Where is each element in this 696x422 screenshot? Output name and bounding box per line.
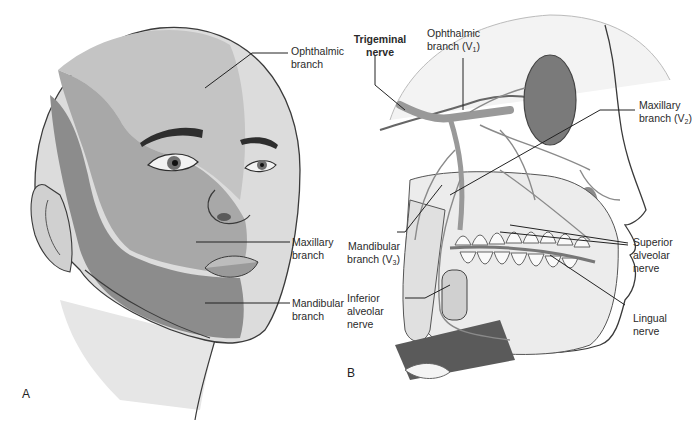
label-text: branch (V	[347, 253, 393, 265]
label-mandibular-branch: Mandibular branch	[292, 297, 344, 323]
label-line: branch (V1)	[427, 40, 480, 56]
label-maxillary-branch-v2: Maxillary branch (V2)	[639, 99, 692, 128]
label-line: Superior	[633, 236, 673, 249]
label-line: branch	[291, 58, 344, 71]
panel-letter-b: B	[347, 366, 355, 380]
label-line: nerve	[350, 46, 410, 59]
label-line: Ophthalmic	[427, 27, 480, 40]
label-line: Maxillary	[292, 236, 333, 249]
label-line: Trigeminal	[350, 33, 410, 46]
label-superior-alveolar-nerve: Superior alveolar nerve	[633, 236, 673, 275]
label-lingual-nerve: Lingual nerve	[633, 312, 667, 338]
panel-letter-a: A	[22, 387, 30, 401]
label-line: alveolar	[347, 305, 384, 318]
label-line: Inferior	[347, 292, 384, 305]
label-line: branch (V3)	[345, 253, 400, 269]
label-line: branch (V2)	[639, 112, 692, 128]
label-inferior-alveolar-nerve: Inferior alveolar nerve	[347, 292, 384, 331]
label-text: branch (V	[639, 112, 685, 124]
label-text: )	[688, 112, 692, 124]
panel-b-skull: Trigeminal nerve Ophthalmic branch (V1) …	[350, 0, 696, 422]
label-trigeminal-nerve: Trigeminal nerve	[350, 33, 410, 59]
label-ophthalmic-branch: Ophthalmic branch	[291, 45, 344, 71]
label-text: branch (V	[427, 40, 473, 52]
label-line: Ophthalmic	[291, 45, 344, 58]
label-line: branch	[292, 310, 344, 323]
label-line: Mandibular	[345, 240, 400, 253]
skull-nerve-illustration	[350, 0, 696, 422]
label-ophthalmic-branch-v1: Ophthalmic branch (V1)	[427, 27, 480, 56]
label-line: Maxillary	[639, 99, 692, 112]
label-text: )	[476, 40, 480, 52]
label-text: )	[397, 253, 401, 265]
label-line: nerve	[633, 262, 673, 275]
label-mandibular-branch-v3: Mandibular branch (V3)	[345, 240, 400, 269]
label-line: nerve	[633, 325, 667, 338]
label-maxillary-branch: Maxillary branch	[292, 236, 333, 262]
label-line: Mandibular	[292, 297, 344, 310]
label-line: Lingual	[633, 312, 667, 325]
label-line: branch	[292, 249, 333, 262]
label-line: alveolar	[633, 249, 673, 262]
label-line: nerve	[347, 318, 384, 331]
panel-a-face: Ophthalmic branch Maxillary branch Mandi…	[0, 0, 350, 422]
